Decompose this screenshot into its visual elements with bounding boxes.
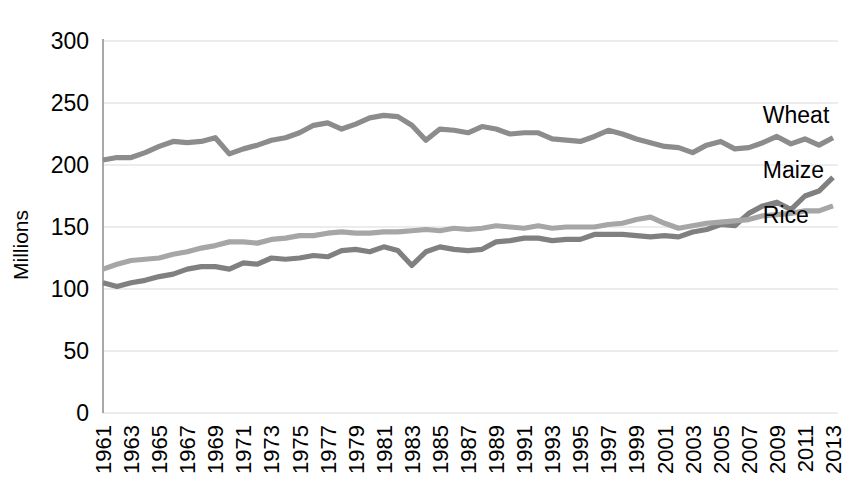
x-axis-tick-label: 2009 bbox=[765, 425, 790, 474]
series-line-rice bbox=[103, 206, 833, 269]
y-axis-tick-label: 0 bbox=[76, 400, 89, 426]
y-axis-tick-label: 100 bbox=[51, 276, 89, 302]
x-axis-tick-label: 1997 bbox=[596, 425, 621, 474]
x-axis-tick-label: 1991 bbox=[512, 425, 537, 474]
x-axis-tick-label: 1975 bbox=[288, 425, 313, 474]
y-axis-title: Millions bbox=[9, 210, 32, 280]
x-axis-tick-labels: 1961196319651967196919711973197519771979… bbox=[91, 425, 846, 474]
series-line-wheat bbox=[103, 115, 833, 160]
x-axis-tick-label: 1979 bbox=[344, 425, 369, 474]
x-axis-tick-label: 2007 bbox=[737, 425, 762, 474]
x-axis-tick-label: 2003 bbox=[681, 425, 706, 474]
y-axis-tick-label: 50 bbox=[63, 338, 89, 364]
y-axis-tick-label: 200 bbox=[51, 152, 89, 178]
x-axis-tick-label: 1965 bbox=[147, 425, 172, 474]
x-axis-tick-label: 2005 bbox=[709, 425, 734, 474]
x-axis-tick-label: 1971 bbox=[231, 425, 256, 474]
x-axis-tick-label: 1983 bbox=[400, 425, 425, 474]
chart-container: 050100150200250300 196119631965196719691… bbox=[0, 0, 860, 498]
series-label-maize: Maize bbox=[763, 157, 824, 183]
x-axis-tick-label: 1999 bbox=[624, 425, 649, 474]
x-axis-tick-label: 1995 bbox=[568, 425, 593, 474]
x-axis-tick-label: 1969 bbox=[203, 425, 228, 474]
x-axis-tick-label: 1989 bbox=[484, 425, 509, 474]
x-axis-tick-label: 2001 bbox=[653, 425, 678, 474]
series-lines-group bbox=[103, 115, 833, 286]
x-axis-tick-label: 1963 bbox=[119, 425, 144, 474]
line-chart: 050100150200250300 196119631965196719691… bbox=[0, 0, 860, 498]
x-axis-tick-label: 1987 bbox=[456, 425, 481, 474]
y-axis-tick-label: 150 bbox=[51, 214, 89, 240]
x-axis-tick-label: 1967 bbox=[175, 425, 200, 474]
y-axis-tick-labels: 050100150200250300 bbox=[51, 28, 89, 426]
x-axis-tick-label: 1977 bbox=[316, 425, 341, 474]
y-axis-tick-label: 300 bbox=[51, 28, 89, 54]
series-label-rice: Rice bbox=[763, 202, 809, 228]
y-axis-tick-label: 250 bbox=[51, 90, 89, 116]
x-axis-tick-label: 2011 bbox=[793, 425, 818, 472]
x-axis-tick-label: 1961 bbox=[91, 425, 116, 474]
x-axis-tick-label: 1973 bbox=[259, 425, 284, 474]
x-axis-tick-label: 2013 bbox=[821, 425, 846, 474]
x-axis-tick-label: 1985 bbox=[428, 425, 453, 474]
x-axis-tick-label: 1993 bbox=[540, 425, 565, 474]
x-axis-tick-label: 1981 bbox=[372, 425, 397, 474]
series-label-wheat: Wheat bbox=[763, 102, 830, 128]
